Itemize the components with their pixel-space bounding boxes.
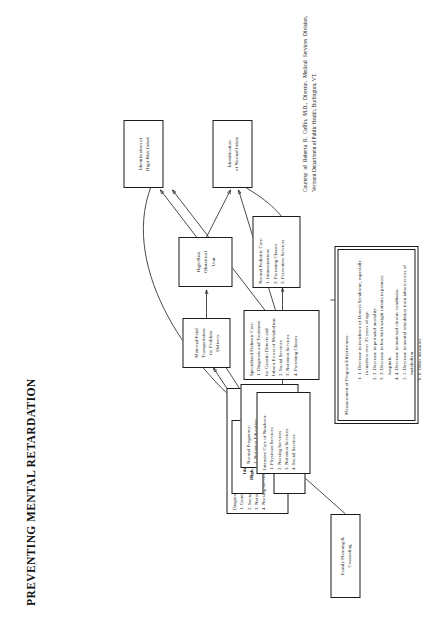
list-item: 5. Decrease in mental retardation from i… — [400, 255, 415, 375]
node-measurement-heading: Measurement of Program Effectiveness: — [343, 334, 348, 415]
node-maternal-fetal-transportation[interactable]: Maternal/Fetal Transportation for Proble… — [182, 318, 230, 368]
list-item: 2. Social Services — [276, 314, 283, 376]
list-item: 1. Decrease in incidence of Down's Syndr… — [355, 255, 370, 375]
node-normal-pediatric-care-heading: Normal Pediatric Care: — [256, 220, 263, 284]
node-intensive-care-newborn-heading: Intensive Care of Newborn: — [260, 396, 267, 470]
node-id-high-risk-infant-label: Identification of High-Risk Infant — [136, 124, 151, 184]
list-item: 2. Decrease in perinatal mortality. — [370, 255, 378, 375]
figure-canvas: PREVENTING MENTAL RETARDATION — [0, 0, 431, 620]
list-item: 4. Social Services — [289, 396, 296, 470]
list-item: 2. Parenting Classes — [271, 220, 278, 284]
list-item: 3. Nutrition Services — [283, 314, 290, 376]
node-maternal-fetal-transportation-label: Maternal/Fetal Transportation for Proble… — [192, 322, 221, 364]
node-measurement-callout[interactable]: Measurement of Program Effectiveness: 1.… — [334, 246, 418, 424]
edge-hrou-to-normalinfant — [206, 190, 230, 237]
list-item: for Genetic Defects and — [262, 314, 269, 376]
list-item: 2. Nursing Services — [275, 396, 282, 470]
node-id-high-risk-infant[interactable]: Identification of High-Risk Infant — [123, 120, 163, 188]
list-item: 6. Other measures. — [415, 255, 423, 375]
list-item: 4. Decrease in maternal chronic conditio… — [392, 255, 400, 375]
node-measurement-inner: Measurement of Program Effectiveness: 1.… — [337, 249, 415, 421]
list-item: 1. Physician Services — [267, 396, 274, 470]
node-id-normal-infant-label: Identification of Normal Infant — [225, 124, 240, 184]
list-item: 1. Immunizations — [263, 220, 270, 284]
list-item: 3. Decrease in low birth weight infants … — [377, 255, 392, 375]
node-high-risk-obstetrical-unit-label: High-Risk Obstetrical Unit — [194, 241, 216, 283]
node-specialized-pediatric-care-items: 1. Diagnosis and Treatmentfor Genetic De… — [254, 314, 298, 376]
list-item: 3. Preventive Services — [278, 220, 285, 284]
node-high-risk-obstetrical-unit[interactable]: High-Risk Obstetrical Unit — [178, 237, 232, 287]
list-item: 1. Diagnosis and Treatment — [254, 314, 261, 376]
credit-line: Courtesy of Roberta R. Coffin, M.D., Dir… — [300, 16, 317, 192]
node-specialized-pediatric-care-heading: Specialized Pediatric Care: — [247, 314, 254, 376]
node-normal-pregnancy-heading: Normal Pregnancy: — [244, 388, 251, 464]
list-item: Inborn Errors of Metabolism — [269, 314, 276, 376]
node-family-planning[interactable]: Family Planning & Counseling — [330, 514, 360, 598]
node-family-planning-label: Family Planning & Counseling — [338, 518, 353, 594]
node-intensive-care-newborn[interactable]: Intensive Care of Newborn: 1. Physician … — [256, 392, 310, 474]
node-normal-pediatric-care[interactable]: Normal Pediatric Care: 1. Immunizations2… — [252, 216, 300, 288]
edge-familyplanning-to-diagnosis — [300, 474, 345, 514]
node-measurement-items: 1. Decrease in incidence of Down's Syndr… — [355, 255, 423, 415]
node-id-normal-infant[interactable]: Identification of Normal Infant — [212, 120, 252, 188]
node-specialized-pediatric-care[interactable]: Specialized Pediatric Care: 1. Diagnosis… — [243, 310, 319, 380]
list-item: 4. Parenting Classes — [291, 314, 298, 376]
list-item: 3. Nutrition Services — [282, 396, 289, 470]
node-intensive-care-newborn-items: 1. Physician Services2. Nursing Services… — [267, 396, 296, 470]
node-normal-pediatric-care-items: 1. Immunizations2. Parenting Classes3. P… — [263, 220, 285, 284]
